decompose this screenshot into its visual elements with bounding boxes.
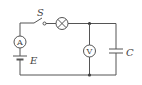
svg-text:V: V (86, 47, 93, 56)
switch-label: S (37, 7, 44, 18)
voltmeter-icon: V (84, 45, 96, 57)
battery-label: E (29, 55, 38, 66)
switch-blade (34, 18, 42, 23)
svg-text:A: A (16, 38, 23, 47)
capacitor-icon (109, 49, 123, 53)
wire-top-left (20, 23, 34, 36)
circuit-diagram: S V C A E (0, 0, 142, 85)
switch-contact (43, 22, 46, 25)
capacitor-label: C (126, 47, 134, 58)
ammeter-icon: A (14, 36, 26, 48)
battery-icon (13, 56, 27, 60)
lamp-icon (56, 18, 68, 30)
